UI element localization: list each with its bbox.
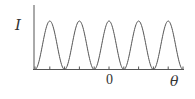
x-axis-label: θ	[170, 73, 178, 89]
y-axis-label: I	[15, 16, 21, 34]
x-tick-label-zero: 0	[106, 72, 113, 88]
intensity-curve	[35, 21, 183, 70]
intensity-chart	[0, 0, 195, 99]
